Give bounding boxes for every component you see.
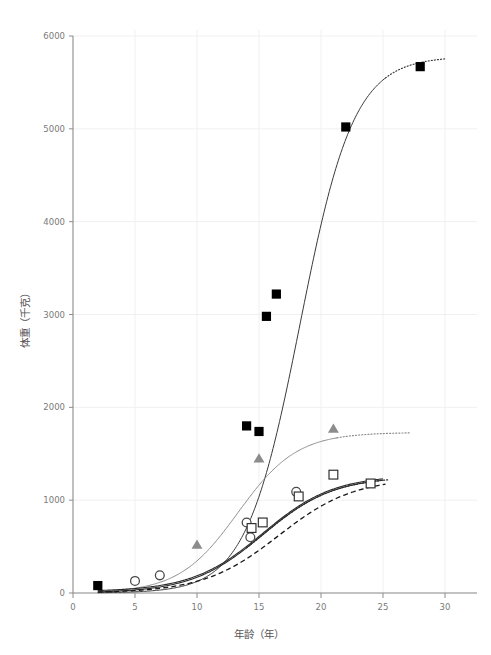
y-tick-label: 1000: [43, 495, 65, 505]
marker-filled-square: [416, 62, 425, 71]
tick-marks: [69, 36, 445, 598]
curve-filled-square-series: [98, 59, 445, 593]
marker-filled-triangle: [328, 423, 339, 432]
marker-filled-triangle: [192, 540, 203, 549]
x-tick-label: 20: [316, 602, 327, 612]
marker-open-square: [329, 470, 338, 479]
chart-plot-area: 0100020003000400050006000051015202530 年龄…: [0, 0, 491, 655]
marker-open-circle: [131, 577, 140, 586]
x-tick-label: 10: [192, 602, 203, 612]
marker-open-circle: [246, 533, 255, 542]
x-tick-label: 15: [254, 602, 265, 612]
x-axis-title: 年龄（年）: [234, 628, 284, 640]
curve-extrapolation: [385, 59, 445, 78]
y-tick-label: 2000: [43, 402, 65, 412]
marker-filled-square: [341, 122, 350, 131]
marker-filled-square: [262, 312, 271, 321]
marker-filled-square: [272, 289, 281, 298]
curve-gray-triangle-series: [98, 433, 410, 592]
series-markers-open-square-series: [247, 470, 375, 532]
marker-open-square: [247, 524, 256, 533]
marker-filled-square: [93, 581, 102, 590]
marker-filled-square: [242, 421, 251, 430]
x-tick-label: 30: [440, 602, 451, 612]
curve-open-circle-series-dotted: [247, 480, 388, 548]
marker-open-square: [258, 518, 267, 527]
y-tick-label: 4000: [43, 217, 65, 227]
grid-lines: [73, 30, 477, 593]
y-tick-label: 5000: [43, 124, 65, 134]
x-tick-label: 5: [132, 602, 137, 612]
marker-open-square: [294, 492, 303, 501]
marker-filled-square: [254, 427, 263, 436]
y-tick-label: 0: [60, 588, 65, 598]
chart-container: 0100020003000400050006000051015202530 年龄…: [0, 0, 491, 655]
x-tick-label: 25: [378, 602, 389, 612]
y-tick-label: 6000: [43, 31, 65, 41]
y-tick-label: 3000: [43, 310, 65, 320]
marker-open-square: [366, 479, 375, 488]
curve-stroke: [98, 479, 383, 591]
y-axis-title: 体重（千克）: [19, 288, 31, 348]
curve-open-circle-series: [98, 479, 383, 592]
marker-open-circle: [155, 571, 164, 580]
curve-extrapolation: [337, 433, 410, 438]
marker-filled-triangle: [254, 453, 265, 462]
x-tick-label: 0: [70, 602, 75, 612]
curve-stroke: [98, 78, 386, 593]
fitted-curves: [98, 59, 445, 593]
